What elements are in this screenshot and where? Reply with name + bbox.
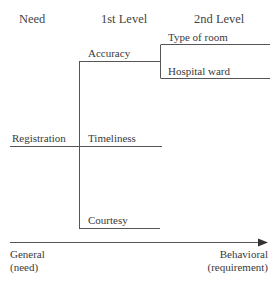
arrow-head-icon [258, 239, 268, 247]
need-item: Registration [12, 132, 66, 144]
axis-right-label: Behavioral [220, 248, 268, 260]
level1-item: Courtesy [88, 214, 128, 226]
axis-right-sublabel: (requirement) [208, 261, 268, 273]
level1-item: Accuracy [88, 47, 130, 59]
level2-item: Hospital ward [168, 65, 230, 77]
level1-item: Timeliness [88, 132, 136, 144]
axis-left-sublabel: (need) [10, 261, 38, 273]
level2-item: Type of room [168, 31, 228, 43]
axis-left-label: General [10, 248, 45, 260]
